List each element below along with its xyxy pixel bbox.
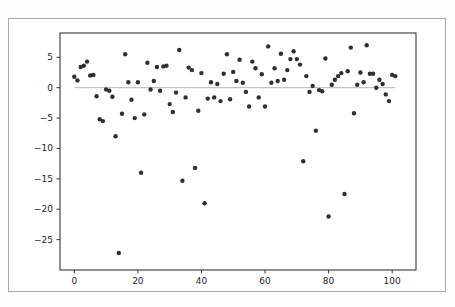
scatter-point (202, 201, 206, 205)
scatter-point (193, 166, 197, 170)
scatter-point (110, 95, 114, 99)
scatter-point (365, 43, 369, 47)
scatter-point (298, 62, 302, 66)
scatter-point (206, 96, 210, 100)
scatter-point (349, 45, 353, 49)
scatter-point (387, 99, 391, 103)
scatter-point (123, 52, 127, 56)
screenshot-root: 02040608010050−5−10−15−20−25 (0, 0, 455, 307)
x-tick-label: 60 (259, 276, 271, 286)
scatter-point (272, 66, 276, 70)
scatter-point (380, 82, 384, 86)
scatter-point (304, 74, 308, 78)
y-tick-label: −15 (34, 174, 53, 184)
scatter-point (282, 78, 286, 82)
scatter-point (285, 68, 289, 72)
scatter-point (180, 179, 184, 183)
scatter-point (231, 70, 235, 74)
scatter-point (85, 59, 89, 63)
scatter-point (107, 89, 111, 93)
scatter-point (257, 95, 261, 99)
scatter-point (307, 90, 311, 94)
scatter-point (152, 79, 156, 83)
scatter-point (190, 68, 194, 72)
scatter-point (263, 104, 267, 108)
scatter-point (244, 90, 248, 94)
scatter-point (199, 71, 203, 75)
scatter-point (384, 92, 388, 96)
scatter-point (183, 95, 187, 99)
scatter-point (209, 80, 213, 84)
scatter-point (155, 65, 159, 69)
scatter-point (212, 95, 216, 99)
scatter-point (158, 89, 162, 93)
scatter-point (225, 52, 229, 56)
scatter-point (279, 52, 283, 56)
scatter-point (148, 87, 152, 91)
scatter-point (126, 80, 130, 84)
scatter-point (177, 48, 181, 52)
scatter-point (117, 251, 121, 255)
scatter-point (253, 66, 257, 70)
scatter-point (142, 112, 146, 116)
y-tick-label: −25 (34, 235, 53, 245)
scatter-point (361, 80, 365, 84)
scatter-point (295, 57, 299, 61)
scatter-point (336, 74, 340, 78)
scatter-point (82, 64, 86, 68)
scatter-point (269, 81, 273, 85)
scatter-point (377, 78, 381, 82)
scatter-point (358, 70, 362, 74)
x-tick-label: 0 (71, 276, 77, 286)
scatter-point (136, 80, 140, 84)
x-tick-label: 20 (132, 276, 144, 286)
scatter-point (393, 74, 397, 78)
scatter-point (215, 82, 219, 86)
scatter-point (139, 171, 143, 175)
scatter-point (266, 44, 270, 48)
scatter-point (326, 214, 330, 218)
scatter-point (291, 49, 295, 53)
scatter-point (342, 192, 346, 196)
x-tick-label: 80 (323, 276, 335, 286)
scatter-chart: 02040608010050−5−10−15−20−25 (0, 0, 455, 307)
scatter-point (352, 111, 356, 115)
scatter-point (355, 83, 359, 87)
y-tick-label: 5 (47, 52, 53, 62)
scatter-point (101, 119, 105, 123)
scatter-point (129, 98, 133, 102)
scatter-point (301, 159, 305, 163)
scatter-point (276, 79, 280, 83)
scatter-point (333, 78, 337, 82)
scatter-point (339, 71, 343, 75)
scatter-point (171, 110, 175, 114)
scatter-point (288, 57, 292, 61)
scatter-point (145, 61, 149, 65)
y-tick-label: −20 (34, 204, 53, 214)
scatter-point (234, 79, 238, 83)
scatter-point (222, 72, 226, 76)
scatter-point (320, 89, 324, 93)
scatter-point (241, 81, 245, 85)
y-tick-label: 0 (47, 83, 53, 93)
scatter-point (133, 116, 137, 120)
scatter-point (218, 99, 222, 103)
x-tick-label: 40 (196, 276, 208, 286)
scatter-point (330, 83, 334, 87)
scatter-point (250, 59, 254, 63)
axes-box (60, 33, 416, 270)
scatter-point (168, 102, 172, 106)
scatter-point (91, 73, 95, 77)
scatter-point (311, 84, 315, 88)
scatter-point (346, 69, 350, 73)
scatter-point (113, 134, 117, 138)
scatter-point (94, 94, 98, 98)
scatter-point (314, 129, 318, 133)
scatter-point (196, 109, 200, 113)
scatter-point (228, 97, 232, 101)
scatter-point (174, 90, 178, 94)
scatter-point (75, 78, 79, 82)
y-tick-label: −10 (34, 143, 53, 153)
scatter-point (323, 56, 327, 60)
scatter-point (260, 72, 264, 76)
